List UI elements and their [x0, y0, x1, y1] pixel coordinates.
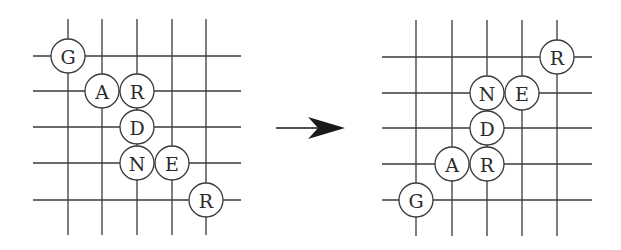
letter-node: D: [120, 110, 154, 144]
letter-node: A: [85, 74, 119, 108]
node-letter: A: [94, 81, 109, 103]
node-letter: N: [129, 153, 146, 175]
node-letter: A: [444, 154, 459, 176]
letter-node: G: [51, 39, 85, 73]
letter-node: R: [540, 40, 574, 74]
letter-node: R: [470, 147, 504, 181]
node-letter: R: [130, 81, 145, 103]
node-letter: D: [129, 117, 144, 139]
node-letter: R: [480, 154, 495, 176]
left-grid: GARDNER: [33, 19, 241, 235]
letter-node: D: [470, 111, 504, 145]
transform-arrow: [276, 117, 345, 139]
node-letter: E: [515, 83, 529, 105]
node-letter: R: [550, 47, 565, 69]
letter-node: N: [120, 146, 154, 180]
node-letter: G: [60, 46, 75, 68]
node-letter: N: [479, 83, 496, 105]
letter-node: R: [189, 183, 223, 217]
diagram-canvas: GARDNER RNEDARG: [0, 0, 621, 250]
letter-node: N: [470, 76, 504, 110]
node-letter: D: [479, 118, 494, 140]
node-letter: G: [408, 190, 423, 212]
node-letter: R: [199, 190, 214, 212]
node-letter: E: [165, 153, 179, 175]
letter-node: R: [120, 74, 154, 108]
letter-node: G: [399, 183, 433, 217]
letter-node: E: [155, 146, 189, 180]
letter-node: E: [505, 76, 539, 110]
right-grid: RNEDARG: [382, 20, 592, 236]
letter-node: A: [435, 147, 469, 181]
